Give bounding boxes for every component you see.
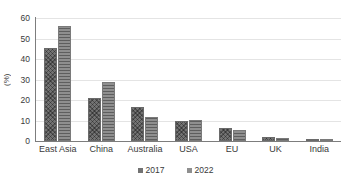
category-label-usa: USA: [167, 144, 211, 154]
legend-label: 2022: [195, 165, 214, 175]
bar-india-2022: [320, 139, 333, 141]
chart-legend: 20172022: [0, 165, 351, 175]
category-label-uk: UK: [254, 144, 298, 154]
y-axis-tick-label: 40: [8, 54, 30, 64]
y-axis-tick-label: 30: [8, 75, 30, 85]
y-axis-tick-label: 50: [8, 34, 30, 44]
bar-chart: (%) 0102030405060 East AsiaChinaAustrali…: [0, 0, 351, 187]
bar-uk-2017: [262, 137, 275, 141]
y-axis-tick-label: 60: [8, 13, 30, 23]
category-label-eu: EU: [210, 144, 254, 154]
legend-swatch-icon: [138, 168, 143, 173]
y-axis-tick-label: 0: [8, 136, 30, 146]
y-axis-tick-label: 10: [8, 116, 30, 126]
bar-east-asia-2022: [58, 26, 71, 141]
bar-india-2017: [306, 139, 319, 141]
legend-label: 2017: [146, 165, 165, 175]
gridline: [36, 39, 341, 40]
legend-swatch-icon: [187, 168, 192, 173]
bar-uk-2022: [276, 138, 289, 141]
gridline: [36, 18, 341, 19]
gridline: [36, 59, 341, 60]
x-axis-line: [35, 141, 341, 142]
legend-item-2022[interactable]: 2022: [187, 165, 214, 175]
plot-area: [36, 18, 341, 141]
bar-china-2017: [88, 98, 101, 141]
category-label-east-asia: East Asia: [36, 144, 80, 154]
category-label-australia: Australia: [123, 144, 167, 154]
bar-china-2022: [102, 82, 115, 141]
bar-usa-2017: [175, 121, 188, 142]
bar-australia-2017: [131, 107, 144, 141]
bar-australia-2022: [145, 117, 158, 141]
category-label-india: India: [297, 144, 341, 154]
y-axis-tick-label: 20: [8, 95, 30, 105]
bar-eu-2017: [219, 128, 232, 141]
bar-eu-2022: [233, 130, 246, 141]
category-label-china: China: [80, 144, 124, 154]
gridline: [36, 100, 341, 101]
gridline: [36, 80, 341, 81]
bar-east-asia-2017: [44, 48, 57, 141]
bar-usa-2022: [189, 120, 202, 141]
legend-item-2017[interactable]: 2017: [138, 165, 165, 175]
